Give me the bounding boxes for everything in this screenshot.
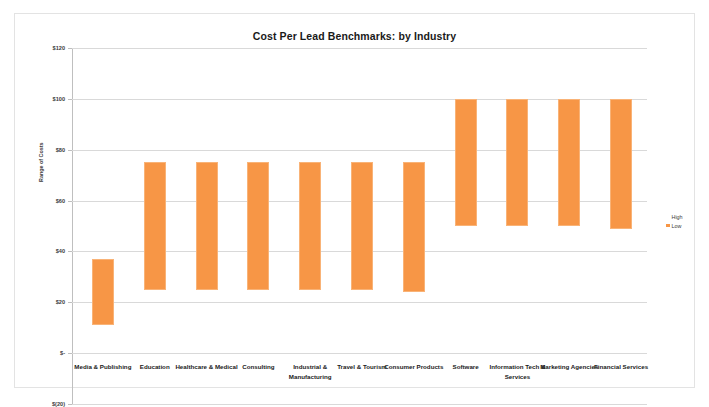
y-axis-tick — [68, 48, 72, 49]
bar-slot — [543, 48, 595, 404]
y-axis-tick — [68, 251, 72, 252]
bar[interactable] — [506, 99, 528, 226]
bar-slot — [440, 48, 492, 404]
chart-legend: HighLow — [666, 212, 683, 230]
gridline — [72, 404, 647, 405]
y-axis-tick-label: $120 — [53, 45, 65, 51]
bar[interactable] — [196, 162, 218, 289]
y-axis-tick-label: $80 — [56, 147, 65, 153]
bar-slot — [595, 48, 647, 404]
y-axis-tick — [68, 404, 72, 405]
legend-swatch-icon — [666, 224, 670, 228]
bar-slot — [284, 48, 336, 404]
bar[interactable] — [144, 162, 166, 289]
x-axis-category-label: Financial Services — [584, 362, 658, 372]
y-axis-tick — [68, 302, 72, 303]
bar-slot — [492, 48, 544, 404]
bar[interactable] — [299, 162, 321, 289]
legend-label: High — [672, 214, 683, 220]
y-axis-title: Range of Costs — [38, 142, 44, 182]
bar[interactable] — [558, 99, 580, 226]
y-axis-tick-label: $100 — [53, 96, 65, 102]
y-axis-line — [72, 48, 73, 404]
bar[interactable] — [92, 259, 114, 325]
y-axis-tick — [68, 99, 72, 100]
y-axis-tick-label: $60 — [56, 198, 65, 204]
y-axis-tick-label: $40 — [56, 248, 65, 254]
bar-slot — [388, 48, 440, 404]
bar-slot — [77, 48, 129, 404]
y-axis-tick-label: $20 — [56, 299, 65, 305]
bar-slot — [336, 48, 388, 404]
legend-label: Low — [672, 223, 682, 229]
bar[interactable] — [351, 162, 373, 289]
y-axis-tick — [68, 150, 72, 151]
legend-item[interactable]: Low — [666, 221, 683, 230]
chart-container: Cost Per Lead Benchmarks: by Industry Ra… — [14, 13, 695, 388]
bar[interactable] — [610, 99, 632, 229]
bar-slot — [232, 48, 284, 404]
y-axis-tick-label: $- — [60, 350, 65, 356]
bar-slot — [181, 48, 233, 404]
legend-swatch-icon — [666, 215, 670, 219]
legend-item[interactable]: High — [666, 212, 683, 221]
bar[interactable] — [247, 162, 269, 289]
y-axis-tick — [68, 201, 72, 202]
y-axis-tick-label: $(20) — [52, 401, 65, 407]
chart-title: Cost Per Lead Benchmarks: by Industry — [15, 30, 694, 42]
plot-area: $120$100$80$60$40$20$-$(20) Media & Publ… — [72, 48, 647, 404]
bar-slot — [129, 48, 181, 404]
y-axis-tick — [68, 353, 72, 354]
bar[interactable] — [403, 162, 425, 292]
bar[interactable] — [455, 99, 477, 226]
